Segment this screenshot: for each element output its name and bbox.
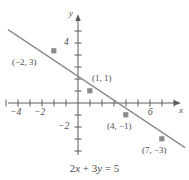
plotted-line xyxy=(8,30,185,148)
equation-term1-var: x xyxy=(75,162,80,174)
data-point-marker xyxy=(159,136,164,141)
y-axis-label: y xyxy=(69,9,73,18)
point-label-7-neg3: (7, −3) xyxy=(142,146,167,155)
x-axis xyxy=(6,100,181,107)
y-tick-label-4: 4 xyxy=(64,38,69,48)
y-tick-label-neg2: −2 xyxy=(58,122,69,132)
point-label-neg2-3: (−2, 3) xyxy=(12,58,37,67)
point-label-4-neg1: (4, −1) xyxy=(107,122,132,131)
x-axis-label: x xyxy=(179,106,183,115)
equation-caption: 2x + 3y = 5 xyxy=(0,162,189,174)
equation-equals: = xyxy=(105,162,111,174)
equation-rhs: 5 xyxy=(114,162,120,174)
point-label-1-1: (1, 1) xyxy=(92,74,112,83)
data-point-marker xyxy=(87,88,92,93)
x-tick-label-neg4: −4 xyxy=(10,108,21,118)
equation-plus: + xyxy=(83,162,89,174)
x-tick-label-neg2: −2 xyxy=(34,108,45,118)
coordinate-plane-figure: −4 −2 6 4 −2 x y (−2, 3) (1, 1) (4, −1) … xyxy=(0,0,189,180)
equation-term2-var: y xyxy=(97,162,102,174)
data-point-marker xyxy=(51,48,56,53)
data-point-marker xyxy=(123,112,128,117)
y-axis xyxy=(75,14,82,155)
x-tick-label-6: 6 xyxy=(148,108,153,118)
